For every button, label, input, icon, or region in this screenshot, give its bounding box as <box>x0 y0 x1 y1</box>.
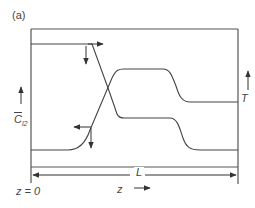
reactor-profile-diagram <box>0 0 255 208</box>
chlorine-concentration-curve <box>31 44 238 150</box>
temperature-curve <box>31 69 238 150</box>
chlorine-axis-label: Cl2 <box>14 114 27 127</box>
chlorine-symbol: C <box>14 113 22 125</box>
reactor-frame <box>31 29 238 184</box>
origin-label: z = 0 <box>16 186 40 197</box>
panel-label: (a) <box>12 10 25 21</box>
chlorine-subscript: l2 <box>22 120 27 127</box>
direction-label: z <box>117 184 123 195</box>
length-label: L <box>134 167 144 178</box>
temperature-axis-label: T <box>241 93 248 104</box>
